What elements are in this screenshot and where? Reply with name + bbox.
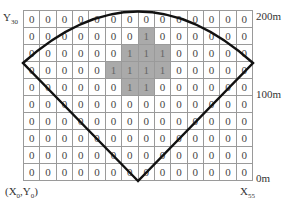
distance-label-0m: 0m: [256, 172, 270, 184]
radar-fan-outline: [0, 0, 294, 207]
y-axis-top-label: Y30: [3, 11, 18, 26]
x-axis-right-label: X55: [240, 185, 255, 200]
distance-label-200m: 200m: [256, 10, 281, 22]
distance-label-100m: 100m: [256, 88, 281, 100]
origin-label: (X0,Y0): [5, 185, 38, 200]
